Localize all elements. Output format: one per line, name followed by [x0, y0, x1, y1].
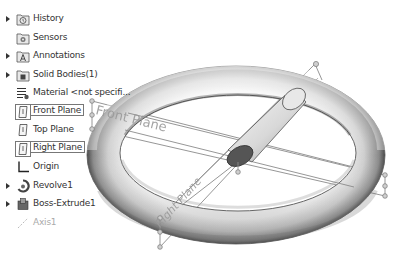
tree-item-label: Axis1 [33, 217, 56, 227]
expand-arrow-icon[interactable] [6, 16, 10, 22]
tree-item-label: Revolve1 [33, 180, 73, 190]
history-folder-icon [16, 12, 30, 26]
tree-item-history[interactable]: History [0, 10, 130, 29]
annotations-folder-icon [16, 49, 30, 63]
feature-manager-tree: History Sensors Annotations Solid Bodies… [0, 10, 130, 232]
expand-arrow-icon[interactable] [6, 53, 10, 59]
tree-item-label: Material <not specifi... [33, 87, 130, 97]
revolve-icon [16, 179, 30, 193]
tree-item-sensors[interactable]: Sensors [0, 29, 130, 48]
tree-item-top-plane[interactable]: Top Plane [0, 121, 130, 140]
axis-icon [16, 216, 30, 230]
expand-arrow-icon[interactable] [6, 72, 10, 78]
tree-item-revolve1[interactable]: Revolve1 [0, 177, 130, 196]
tree-item-axis1[interactable]: Axis1 [0, 214, 130, 233]
tree-item-boss-extrude1[interactable]: Boss-Extrude1 [0, 195, 130, 214]
tree-item-label: Annotations [33, 50, 85, 60]
origin-icon [16, 160, 30, 174]
tree-item-right-plane[interactable]: Right Plane [0, 140, 130, 159]
tree-item-label: Solid Bodies(1) [33, 69, 98, 79]
plane-icon [16, 105, 30, 119]
plane-icon [16, 142, 30, 156]
sensors-folder-icon [16, 31, 30, 45]
extrude-icon [16, 197, 30, 211]
tree-item-label: Right Plane [31, 142, 84, 152]
material-icon [16, 86, 30, 100]
tree-item-solid-bodies[interactable]: Solid Bodies(1) [0, 66, 130, 85]
tree-item-label: Sensors [33, 32, 67, 42]
tree-item-label: Origin [33, 161, 59, 171]
tree-item-label: Front Plane [31, 105, 83, 115]
tree-item-label: History [33, 13, 64, 23]
tree-item-annotations[interactable]: Annotations [0, 47, 130, 66]
solid-bodies-folder-icon [16, 68, 30, 82]
tree-item-label: Boss-Extrude1 [33, 198, 96, 208]
tree-item-origin[interactable]: Origin [0, 158, 130, 177]
tree-item-front-plane[interactable]: Front Plane [0, 103, 130, 122]
plane-icon [16, 123, 30, 137]
expand-arrow-icon[interactable] [6, 201, 10, 207]
expand-arrow-icon[interactable] [6, 183, 10, 189]
tree-item-material[interactable]: Material <not specifi... [0, 84, 130, 103]
tree-item-label: Top Plane [33, 124, 74, 134]
